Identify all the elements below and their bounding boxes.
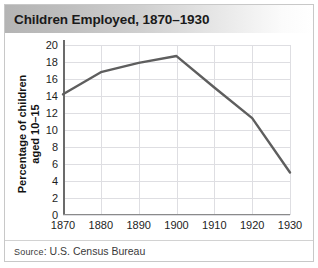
- y-tick-label: 2: [52, 192, 58, 204]
- axes: 02468101214161820 1870188018901900191019…: [63, 45, 290, 215]
- x-tick-label: 1920: [240, 219, 264, 231]
- source-note: Source: U.S. Census Bureau: [14, 245, 145, 257]
- y-tick-label: 4: [52, 175, 58, 187]
- x-tick-label: 1890: [126, 219, 150, 231]
- x-tick-label: 1870: [51, 219, 75, 231]
- gridline-horizontal: [63, 215, 290, 216]
- y-tick-label: 20: [46, 39, 58, 51]
- y-tick-label: 14: [46, 90, 58, 102]
- data-series-line: [63, 45, 290, 215]
- plot-area: Percentage of children aged 10–15 024681…: [5, 33, 313, 261]
- y-tick-label: 6: [52, 158, 58, 170]
- source-value: : U.S. Census Bureau: [44, 245, 146, 257]
- chart-title-bar: Children Employed, 1870–1930: [5, 5, 313, 33]
- y-tick-label: 12: [46, 107, 58, 119]
- page-title: Children Employed, 1870–1930: [5, 12, 209, 27]
- gridline-vertical: [290, 45, 291, 215]
- x-tick-label: 1900: [164, 219, 188, 231]
- y-tick-label: 18: [46, 56, 58, 68]
- source-divider: [5, 240, 313, 241]
- y-tick-label: 8: [52, 141, 58, 153]
- x-tick-label: 1910: [202, 219, 226, 231]
- source-label: Source: [14, 247, 44, 257]
- y-axis-label: Percentage of children aged 10–15: [16, 59, 42, 209]
- chart-figure: Children Employed, 1870–1930 Percentage …: [0, 0, 318, 268]
- x-tick-label: 1930: [278, 219, 302, 231]
- y-tick-label: 16: [46, 73, 58, 85]
- y-tick-label: 10: [46, 124, 58, 136]
- x-tick-label: 1880: [89, 219, 113, 231]
